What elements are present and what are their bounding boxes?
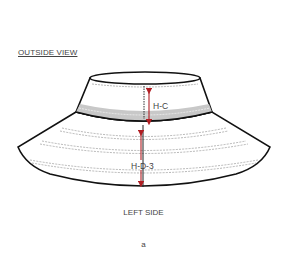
hat-diagram: H-C H-D-3 — [0, 0, 287, 261]
figure-label: a — [0, 240, 287, 249]
brim-depth-label: H-D-3 — [131, 161, 154, 171]
hat-brim — [18, 112, 270, 186]
crown-height-label: H-C — [153, 101, 168, 111]
side-label: LEFT SIDE — [0, 208, 287, 217]
